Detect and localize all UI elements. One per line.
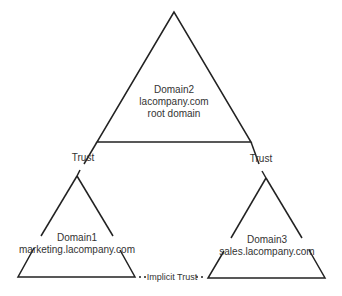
domain3-triangle-right-side (266, 178, 302, 238)
implicit-trust-label: Implicit Trust (145, 271, 199, 283)
domain3-name: Domain3 (206, 234, 328, 246)
domain3-label: Domain3 sales.lacompany.com (206, 234, 328, 258)
domain3-triangle-left-side (231, 178, 266, 238)
root-domain-label: Domain2 lacompany.com root domain (124, 84, 224, 120)
root-domain-triangle (97, 12, 251, 142)
trust-left-label: Trust (66, 152, 100, 164)
root-domain-dns: lacompany.com (124, 96, 224, 108)
domain1-label: Domain1 marketing.lacompany.com (12, 232, 142, 256)
domain1-triangle-left-side (41, 176, 77, 236)
trust-line-right-lower (262, 171, 266, 178)
domain1-triangle-right-side (77, 176, 113, 236)
trust-right-label: Trust (244, 153, 278, 165)
root-domain-name: Domain2 (124, 84, 224, 96)
domain1-dns: marketing.lacompany.com (12, 244, 142, 256)
domain1-name: Domain1 (12, 232, 142, 244)
domain3-dns: sales.lacompany.com (206, 246, 328, 258)
trust-line-left-lower (77, 170, 80, 176)
root-domain-role: root domain (124, 108, 224, 120)
